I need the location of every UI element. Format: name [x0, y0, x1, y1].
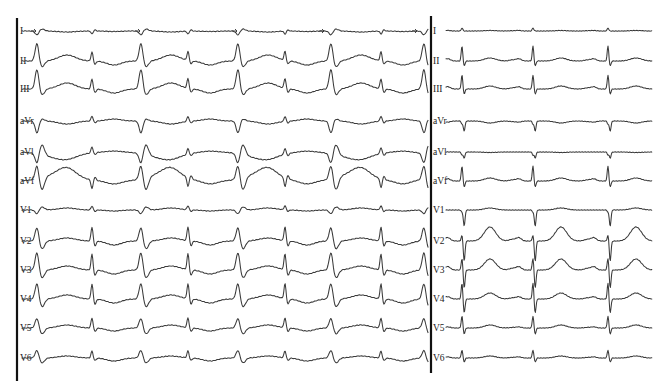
trace-right-V2 — [446, 227, 652, 261]
trace-left-II — [22, 44, 428, 67]
trace-right-aVf — [446, 166, 652, 186]
trace-left-aVf — [22, 166, 428, 189]
trace-right-V6 — [446, 350, 652, 362]
lead-label-right-aVr: aVr — [433, 116, 448, 126]
trace-left-V1 — [22, 206, 428, 214]
trace-left-aVl — [22, 145, 428, 163]
lead-label-right-V2: V2 — [433, 236, 445, 246]
trace-right-I — [446, 28, 652, 31]
arrow-marker-icon — [232, 29, 237, 33]
lead-label-right-V5: V5 — [433, 323, 445, 333]
right-panel-traces — [446, 28, 652, 362]
ecg-figure: IIIIIIaVraVlaVfV1V2V3V4V5V6 IIIIIIaVraVl… — [0, 0, 672, 390]
lead-label-right-II: II — [433, 56, 439, 66]
lead-label-right-V4: V4 — [433, 294, 445, 304]
trace-right-V3 — [446, 259, 652, 288]
trace-right-aVr — [446, 121, 652, 131]
trace-right-V1 — [446, 208, 652, 226]
trace-left-V2 — [22, 227, 428, 249]
lead-label-right-I: I — [433, 26, 436, 36]
trace-left-V3 — [22, 253, 428, 278]
right-lead-labels: IIIIIIaVraVlaVfV1V2V3V4V5V6 — [433, 26, 448, 363]
arrow-marker-icon — [319, 29, 324, 33]
trace-right-III — [446, 75, 652, 94]
lead-label-right-V6: V6 — [433, 353, 445, 363]
trace-left-V4 — [22, 284, 428, 307]
trace-left-V6 — [22, 350, 428, 363]
left-lead-labels: IIIIIIaVraVlaVfV1V2V3V4V5V6 — [20, 26, 35, 363]
trace-left-V5 — [22, 318, 428, 334]
lead-label-right-V1: V1 — [433, 205, 445, 215]
lead-label-right-III: III — [433, 84, 443, 94]
trace-left-aVr — [22, 116, 428, 133]
trace-right-II — [446, 46, 652, 66]
trace-right-aVl — [446, 152, 652, 158]
left-panel-traces — [22, 29, 428, 363]
lead-label-right-aVl: aVl — [433, 147, 447, 157]
arrow-marker-icon — [412, 29, 417, 33]
trace-right-V4 — [446, 283, 652, 312]
trace-left-I — [22, 29, 428, 35]
lead-label-right-V3: V3 — [433, 265, 445, 275]
trace-right-V5 — [446, 316, 652, 334]
trace-left-III — [22, 70, 428, 95]
lead-label-right-aVf: aVf — [433, 176, 448, 186]
